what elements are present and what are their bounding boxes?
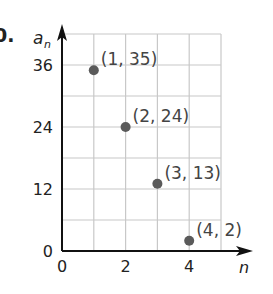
- data-point: [121, 122, 131, 132]
- y-tick-label: 36: [33, 56, 53, 75]
- scatter-chart: 0122436024ann(1, 35)(2, 24)(3, 13)(4, 2): [0, 0, 273, 294]
- data-point-label: (2, 24): [133, 106, 190, 126]
- x-axis-label: n: [239, 258, 249, 277]
- y-axis-label-subscript: n: [44, 38, 51, 51]
- x-tick-label: 4: [184, 257, 194, 276]
- data-point: [184, 236, 194, 246]
- y-axis-label: a: [33, 28, 43, 48]
- y-tick-label: 0: [43, 242, 53, 261]
- data-point-label: (1, 35): [101, 49, 158, 69]
- x-tick-label: 2: [121, 257, 131, 276]
- data-point: [152, 179, 162, 189]
- y-tick-label: 24: [33, 118, 53, 137]
- x-tick-label: 0: [57, 257, 67, 276]
- y-tick-label: 12: [33, 180, 53, 199]
- data-point: [89, 65, 99, 75]
- data-point-label: (4, 2): [196, 220, 242, 240]
- data-point-label: (3, 13): [164, 163, 221, 183]
